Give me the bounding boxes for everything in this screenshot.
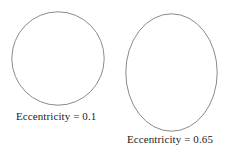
high-eccentricity-caption: Eccentricity = 0.65 [127, 133, 213, 146]
high-eccentricity-ellipse [125, 13, 218, 132]
eccentricity-comparison-figure: Eccentricity = 0.1 Eccentricity = 0.65 [0, 0, 225, 151]
low-eccentricity-ellipse [11, 11, 105, 106]
low-eccentricity-caption: Eccentricity = 0.1 [16, 110, 96, 123]
